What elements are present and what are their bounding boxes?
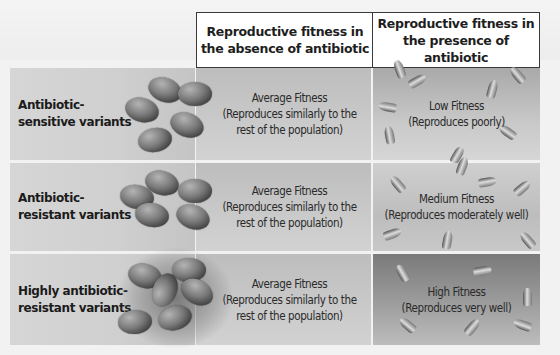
fitness-title: Average Fitness xyxy=(222,276,356,292)
fitness-absence-cell: Average Fitness (Reproduces similarly to… xyxy=(196,163,371,251)
fitness-title: Average Fitness xyxy=(222,90,356,106)
fitness-description-line2: rest of the population) xyxy=(222,122,356,138)
fitness-description-line1: (Reproduces similarly to the xyxy=(222,106,356,122)
row-sensitive-variants: Antibiotic-sensitive variants Average Fi… xyxy=(10,68,540,160)
fitness-title: High Fitness xyxy=(402,284,512,300)
fitness-title: Low Fitness xyxy=(408,98,505,114)
row-resistant-variants: Antibiotic-resistant variants Average Fi… xyxy=(10,163,540,251)
fitness-presence-cell: Medium Fitness (Reproduces moderately we… xyxy=(373,163,540,251)
fitness-description-line2: rest of the population) xyxy=(222,215,356,231)
fitness-description: (Reproduces very well) xyxy=(402,300,512,316)
fitness-description: (Reproduces poorly) xyxy=(408,114,505,130)
fitness-title: Medium Fitness xyxy=(385,191,529,207)
fitness-title: Average Fitness xyxy=(222,183,356,199)
row-highly-resistant-variants: Highly antibiotic-resistant variants Ave… xyxy=(10,254,540,345)
fitness-description-line1: (Reproduces similarly to the xyxy=(222,199,356,215)
bacteria-cluster-icon xyxy=(10,68,210,160)
fitness-description-line1: (Reproduces similarly to the xyxy=(222,292,356,308)
fitness-presence-cell: Low Fitness (Reproduces poorly) xyxy=(373,68,540,160)
column-header-absence: Reproductive fitness in the absence of a… xyxy=(196,12,374,68)
fitness-description: (Reproduces moderately well) xyxy=(385,207,529,223)
bacteria-cluster-icon xyxy=(10,254,210,345)
fitness-presence-cell: High Fitness (Reproduces very well) xyxy=(373,254,540,345)
bacteria-cluster-icon xyxy=(10,163,210,251)
column-header-absence-text: Reproductive fitness in the absence of a… xyxy=(197,23,373,57)
fitness-description-line2: rest of the population) xyxy=(222,308,356,324)
fitness-absence-cell: Average Fitness (Reproduces similarly to… xyxy=(196,68,371,160)
column-header-presence-text: Reproductive fitness in the presence of … xyxy=(373,15,539,66)
